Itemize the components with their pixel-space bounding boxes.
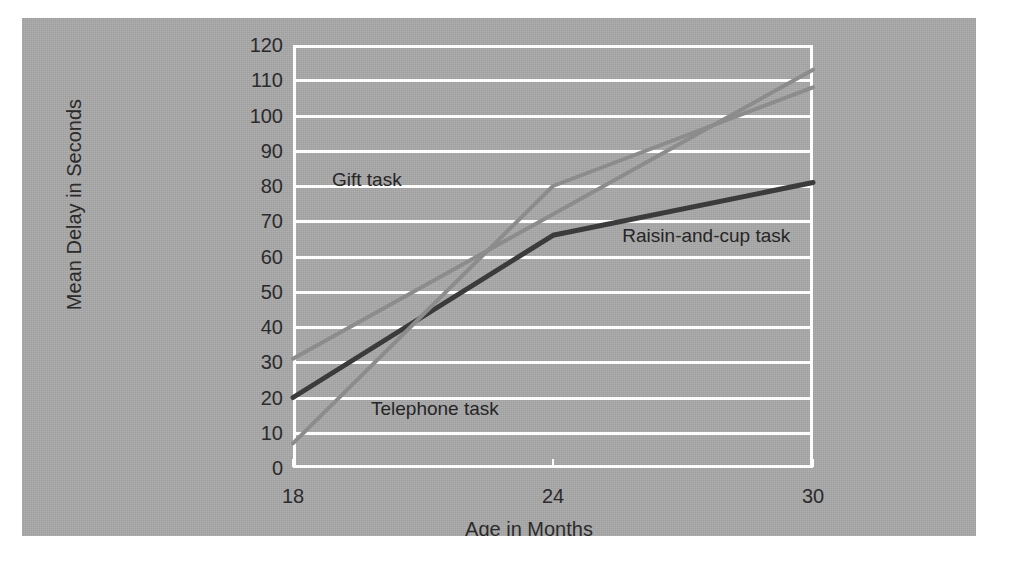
x-axis-title: Age in Months [22, 518, 976, 536]
y-tick-label: 60 [261, 247, 283, 267]
y-tick-label: 120 [250, 35, 283, 55]
y-axis-title: Mean Delay in Seconds [63, 75, 86, 335]
series-label: Raisin-and-cup task [622, 225, 790, 247]
y-tick-label: 30 [261, 352, 283, 372]
y-axis-tick-labels: 0102030405060708090100110120 [233, 18, 283, 536]
y-tick-label: 40 [261, 317, 283, 337]
x-axis-title-text: Age in Months [465, 518, 593, 536]
series-label: Gift task [332, 169, 402, 191]
y-tick-label: 70 [261, 211, 283, 231]
series-line [293, 70, 813, 359]
x-tick-label: 30 [802, 486, 824, 506]
y-tick-label: 20 [261, 388, 283, 408]
y-tick-label: 50 [261, 282, 283, 302]
y-tick-label: 110 [251, 70, 283, 90]
series-line [293, 87, 813, 443]
chart-plate: 0102030405060708090100110120 Mean Delay … [22, 18, 976, 536]
y-tick-label: 80 [261, 176, 283, 196]
y-tick-label: 0 [272, 458, 283, 478]
x-tick-label: 24 [542, 486, 564, 506]
y-tick-label: 10 [261, 423, 283, 443]
plot-area: Gift taskRaisin-and-cup taskTelephone ta… [293, 45, 813, 468]
series-label: Telephone task [371, 398, 499, 420]
figure-root: 0102030405060708090100110120 Mean Delay … [0, 0, 1016, 574]
y-tick-label: 100 [250, 106, 283, 126]
x-tick-label: 18 [282, 486, 304, 506]
y-tick-label: 90 [261, 141, 283, 161]
